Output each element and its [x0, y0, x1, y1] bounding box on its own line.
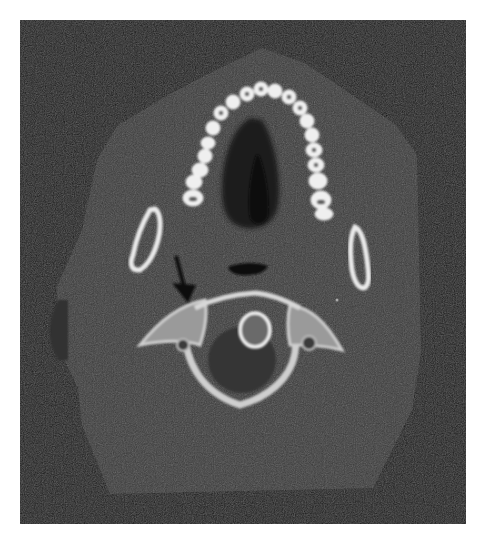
ct-scan-image [0, 0, 484, 541]
tooth [300, 114, 314, 128]
calcification-dot [336, 299, 339, 302]
tooth [315, 208, 333, 220]
foramen-left [177, 339, 189, 351]
tooth [198, 149, 212, 163]
tooth [305, 128, 319, 142]
tooth [309, 173, 327, 189]
dens [240, 313, 270, 347]
tooth [268, 84, 282, 98]
tooth [226, 95, 240, 109]
foramen-right [302, 336, 316, 350]
tooth [192, 163, 208, 177]
tooth [201, 137, 215, 149]
tooth [206, 121, 220, 135]
